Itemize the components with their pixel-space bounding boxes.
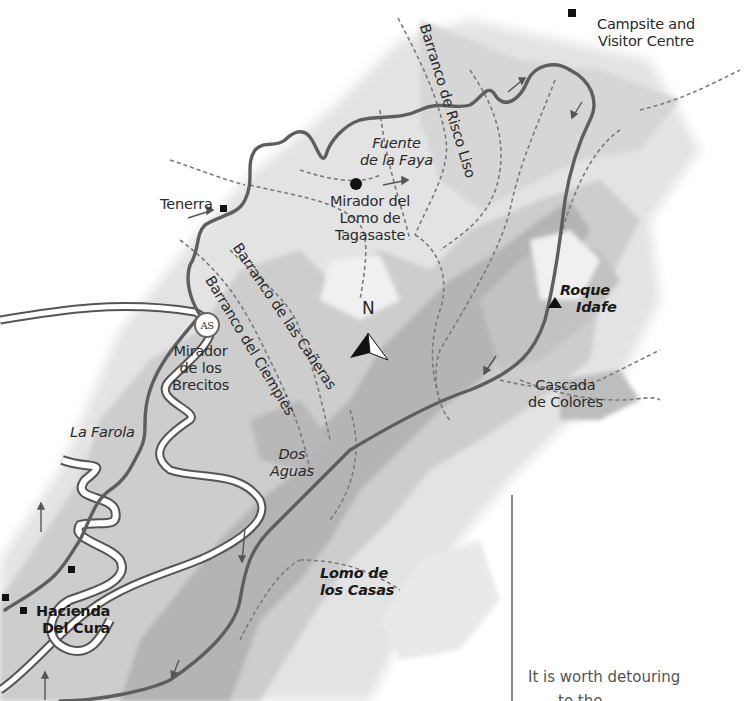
label-line: Lomo de [330, 210, 410, 227]
sidebar-text-cut: to the [558, 692, 602, 701]
label-mirador-lomo: Mirador del Lomo de Tagasaste [330, 193, 410, 244]
label-line: Visitor Centre [597, 33, 695, 50]
label-line: de los [172, 360, 229, 377]
label-line: Roque [560, 282, 617, 299]
campsite-marker [568, 9, 576, 17]
label-line: Tenerra [160, 196, 213, 212]
label-line: Tagasaste [330, 227, 410, 244]
label-line: Idafe [560, 299, 617, 316]
label-line: los Casas [320, 582, 394, 599]
compass-label: N [362, 300, 375, 317]
label-fuente: Fuente de la Faya [360, 135, 433, 169]
label-line: Lomo de [320, 565, 394, 582]
label-line: Mirador del [330, 193, 410, 210]
label-line: de Colores [528, 394, 603, 411]
label-line: Mirador [172, 343, 229, 360]
label-la-farola: La Farola [70, 424, 135, 441]
label-line: Dos [270, 446, 314, 463]
label-line: Brecitos [172, 377, 229, 394]
label-line: Del Cura [36, 620, 110, 637]
label-line: Hacienda [36, 603, 110, 620]
as-badge: AS [194, 312, 220, 338]
mirador-lomo-marker [350, 178, 362, 190]
label-line: Cascada [528, 377, 603, 394]
tenerra-marker [220, 205, 227, 212]
label-line: La Farola [70, 424, 135, 440]
label-dos-aguas: Dos Aguas [270, 446, 314, 480]
label-line: Fuente [360, 135, 433, 152]
compass-n: N [362, 298, 375, 318]
label-roque-idafe: Roque Idafe [560, 282, 617, 316]
hacienda-marker-3 [20, 607, 27, 614]
label-line: Campsite and [597, 16, 695, 33]
label-tenerra: Tenerra [160, 196, 213, 213]
sidebar-text: It is worth detouring [528, 668, 680, 686]
label-cascada: Cascada de Colores [528, 377, 603, 411]
hacienda-marker-1 [68, 566, 75, 573]
label-line: de la Faya [360, 152, 433, 169]
label-mirador-brecitos: Mirador de los Brecitos [172, 343, 229, 394]
hacienda-marker-2 [2, 594, 9, 601]
label-hacienda: Hacienda Del Cura [36, 603, 110, 637]
label-campsite: Campsite and Visitor Centre [597, 16, 695, 50]
label-line: Aguas [270, 463, 314, 480]
label-lomo-casas: Lomo de los Casas [320, 565, 394, 599]
sidebar-divider [511, 495, 513, 701]
